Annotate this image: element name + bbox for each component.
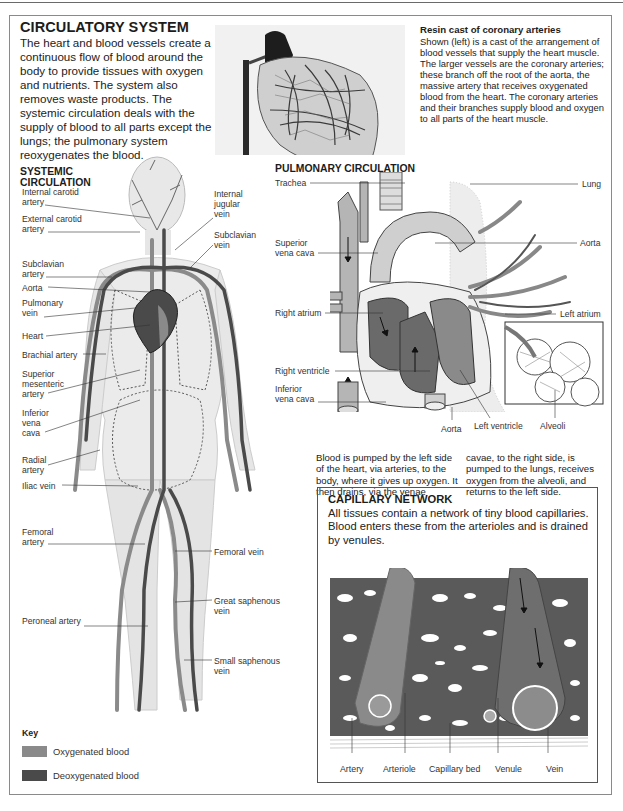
label-vein: Vein [546,764,563,774]
label-venule: Venule [495,764,522,774]
capillary-body: All tissues contain a network of tiny bl… [328,507,593,547]
label-arteriole: Arteriole [383,764,416,774]
label-artery: Artery [340,764,363,774]
label-capillary-bed: Capillary bed [429,764,480,774]
capillary-diagram [330,568,588,753]
capillary-title: CAPILLARY NETWORK [328,493,452,505]
